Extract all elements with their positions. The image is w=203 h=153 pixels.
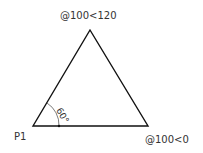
angle-label: 60°	[54, 106, 71, 125]
apex-label: @100<120	[60, 11, 117, 21]
end-point-label: @100<0	[145, 135, 189, 145]
start-point-label: P1	[14, 132, 26, 142]
triangle-diagram: 60°	[0, 0, 203, 153]
triangle-shape	[33, 30, 148, 126]
arc-endpoint	[58, 125, 60, 127]
